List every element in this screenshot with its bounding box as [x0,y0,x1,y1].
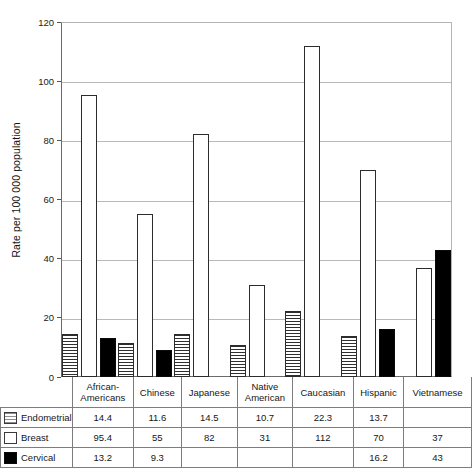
bar-group [340,22,396,377]
bar-group [396,22,452,377]
table-row: Endometrial14.411.614.510.722.313.7 [1,408,472,428]
data-table: African-AmericansChineseJapaneseNativeAm… [0,377,472,468]
bar-endometrial [174,334,190,377]
legend-label: Endometrial [21,412,72,423]
table-corner-cell [1,377,73,408]
chart-figure: Rate per 100 000 population 020406080100… [0,0,472,476]
bar-endometrial [230,345,246,377]
bar-group [173,22,229,377]
table-column-header-line: Hispanic [354,387,403,398]
bar-endometrial [118,343,134,377]
table-column-header-line: Caucasian [293,387,353,398]
table-cell: 10.7 [237,408,292,428]
bar-cervical [379,329,395,377]
bar-endometrial [285,311,301,377]
bar-breast [304,46,320,377]
table-column-header-line: Americans [73,392,133,403]
table-cell: 13.7 [354,408,404,428]
y-axis-tick-label: 120 [38,17,57,28]
bar-cervical [100,338,116,377]
table-column-header: NativeAmerican [237,377,292,408]
table-cell: 11.6 [133,408,181,428]
bar-breast [249,285,265,377]
table-column-header-line: Chinese [134,387,181,398]
table-cell: 16.2 [354,448,404,468]
table-cell: 70 [354,428,404,448]
table-column-header-line: American [238,392,292,403]
y-axis-tick-label: 80 [43,135,57,146]
table-cell: 14.4 [72,408,133,428]
y-axis-tick: 60 [43,194,61,206]
bar-cervical [435,250,451,377]
legend-label: Breast [21,432,48,443]
table-row: Cervical13.29.316.243 [1,448,472,468]
table-cell: 112 [292,428,353,448]
y-axis-tick: 120 [38,16,61,28]
bar-endometrial [62,334,78,377]
table-cell: 82 [181,428,237,448]
legend-item-breast: Breast [1,428,73,448]
table-column-header: Hispanic [354,377,404,408]
legend-item-endometrial: Endometrial [1,408,73,428]
table-cell [181,448,237,468]
table-cell [403,408,471,428]
table-cell: 55 [133,428,181,448]
y-axis-tick-label: 60 [43,194,57,205]
legend-swatch-cervical-icon [4,452,17,464]
bar-breast [137,214,153,377]
table-row: Breast95.45582311127037 [1,428,472,448]
y-axis-ticks: 020406080100120 [0,0,61,400]
legend-swatch-endometrial-icon [4,412,17,424]
table-column-header: African-Americans [72,377,133,408]
bar-breast [81,95,97,377]
y-axis-tick: 20 [43,312,61,324]
table-cell: 43 [403,448,471,468]
y-axis-tick: 100 [38,75,61,87]
bar-breast [193,134,209,377]
legend-label: Cervical [21,452,55,463]
table-header-row: African-AmericansChineseJapaneseNativeAm… [1,377,472,408]
table-cell: 95.4 [72,428,133,448]
table-column-header-line: Japanese [182,387,237,398]
legend-item-cervical: Cervical [1,448,73,468]
table-cell: 31 [237,428,292,448]
bar-group [117,22,173,377]
table-column-header: Chinese [133,377,181,408]
y-axis-tick: 40 [43,253,61,265]
table-column-header: Caucasian [292,377,353,408]
bar-group [284,22,340,377]
bar-group [229,22,285,377]
bar-breast [416,268,432,377]
table-column-header-line: Native [238,381,292,392]
table-cell: 22.3 [292,408,353,428]
bar-cervical [156,350,172,378]
table-column-header-line: Vietnamese [404,387,471,398]
y-axis-tick-label: 40 [43,253,57,264]
table-cell: 13.2 [72,448,133,468]
bar-groups [61,22,452,377]
table-column-header: Japanese [181,377,237,408]
bar-group [61,22,117,377]
table-cell: 14.5 [181,408,237,428]
y-axis-tick-label: 20 [43,312,57,323]
table-cell [237,448,292,468]
legend-swatch-breast-icon [4,432,17,444]
table-column-header-line: African- [73,381,133,392]
table-cell [292,448,353,468]
y-axis-tick: 80 [43,134,61,146]
bar-endometrial [341,336,357,377]
y-axis-tick-label: 100 [38,76,57,87]
table-column-header: Vietnamese [403,377,471,408]
table-cell: 37 [403,428,471,448]
table-cell: 9.3 [133,448,181,468]
bar-breast [360,170,376,377]
